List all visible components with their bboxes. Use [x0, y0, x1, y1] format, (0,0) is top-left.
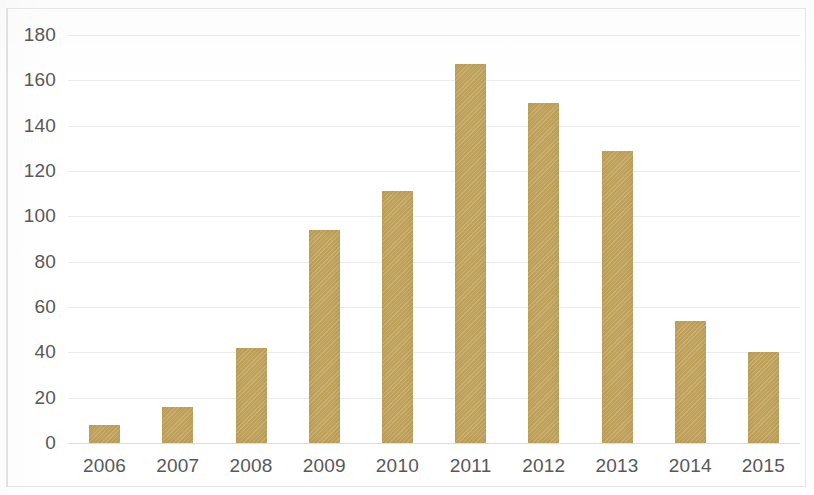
- plot-area: [68, 35, 800, 443]
- y-axis-tick-120: 120: [12, 160, 56, 182]
- y-axis-tick-80: 80: [12, 251, 56, 273]
- x-axis-tick-2013: 2013: [577, 455, 657, 477]
- y-axis-tick-100: 100: [12, 205, 56, 227]
- bar-2015: [748, 352, 779, 443]
- gridline-0: [68, 443, 800, 444]
- gridline-180: [68, 35, 800, 36]
- bar-2006: [89, 425, 120, 443]
- bar-2013: [602, 151, 633, 443]
- y-axis-tick-180: 180: [12, 24, 56, 46]
- x-axis-tick-2008: 2008: [211, 455, 291, 477]
- x-axis-tick-2007: 2007: [138, 455, 218, 477]
- x-axis-tick-2014: 2014: [650, 455, 730, 477]
- gridline-160: [68, 80, 800, 81]
- gridline-120: [68, 171, 800, 172]
- bar-2010: [382, 191, 413, 443]
- x-axis-tick-2009: 2009: [284, 455, 364, 477]
- y-axis-tick-60: 60: [12, 296, 56, 318]
- x-axis-tick-2006: 2006: [65, 455, 145, 477]
- gridline-60: [68, 307, 800, 308]
- y-axis-tick-0: 0: [12, 432, 56, 454]
- x-axis-tick-2010: 2010: [357, 455, 437, 477]
- bar-2014: [675, 321, 706, 443]
- gridline-80: [68, 262, 800, 263]
- x-axis-tick-2015: 2015: [723, 455, 803, 477]
- y-axis-tick-40: 40: [12, 341, 56, 363]
- gridline-140: [68, 126, 800, 127]
- gridline-100: [68, 216, 800, 217]
- x-axis-tick-2012: 2012: [504, 455, 584, 477]
- bar-chart: 0204060801001201401601802006200720082009…: [0, 0, 814, 495]
- bar-2008: [236, 348, 267, 443]
- y-axis-tick-20: 20: [12, 387, 56, 409]
- bar-2007: [162, 407, 193, 443]
- y-axis-tick-140: 140: [12, 115, 56, 137]
- bar-2011: [455, 64, 486, 443]
- y-axis-tick-160: 160: [12, 69, 56, 91]
- x-axis-tick-2011: 2011: [431, 455, 511, 477]
- bar-2009: [309, 230, 340, 443]
- bar-2012: [528, 103, 559, 443]
